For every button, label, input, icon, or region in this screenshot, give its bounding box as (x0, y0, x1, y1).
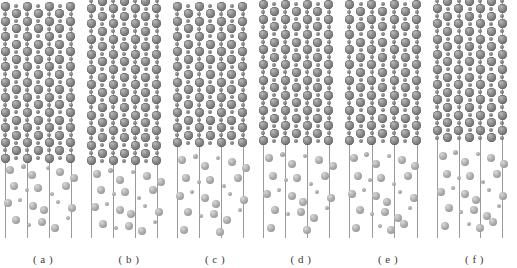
crystal-atom-small (403, 124, 407, 128)
crystal-atom-small (36, 4, 40, 8)
crystal-atom-large (55, 9, 64, 18)
crystal-atom-small (294, 124, 298, 128)
crystal-atom-small (144, 128, 148, 132)
crystal-atom-large (412, 60, 421, 69)
disordered-atom-large (201, 194, 209, 202)
disordered-atom-large (445, 204, 453, 212)
disordered-atom-small (309, 182, 313, 186)
crystal-atom-large (390, 121, 399, 130)
crystal-atom-small (197, 27, 201, 31)
crystal-atom-small (370, 131, 374, 135)
crystal-atom-small (155, 45, 159, 49)
crystal-atom-small (36, 65, 40, 69)
crystal-atom-large (401, 38, 410, 47)
crystal-atom-large (87, 126, 96, 135)
crystal-atom-small (272, 32, 276, 36)
crystal-atom-small (175, 27, 179, 31)
crystal-atom-large (217, 123, 226, 132)
crystal-atom-small (230, 4, 234, 8)
crystal-atom-small (272, 63, 276, 67)
crystal-atom-large (195, 123, 204, 132)
crystal-atom-large (55, 146, 64, 155)
crystal-atom-small (3, 118, 7, 122)
crystal-atom-small (500, 60, 504, 64)
crystal-atom-small (89, 136, 93, 140)
crystal-atom-small (478, 0, 482, 3)
panel-e: ( e ) (344, 0, 432, 268)
crystal-atom-small (272, 2, 276, 6)
disordered-atom-large (461, 190, 469, 198)
crystal-atom-small (208, 95, 212, 99)
crystal-atom-small (415, 86, 419, 90)
crystal-atom-small (3, 57, 7, 61)
crystal-atom-large (131, 141, 140, 150)
crystal-atom-large (87, 65, 96, 74)
crystal-atom-large (98, 118, 107, 127)
disordered-atom-large (34, 184, 42, 192)
crystal-atom-small (435, 60, 439, 64)
crystal-atom-large (259, 136, 268, 145)
crystal-atom-small (230, 50, 234, 54)
crystal-atom-small (327, 40, 331, 44)
crystal-atom-small (294, 48, 298, 52)
crystal-atom-large (141, 12, 150, 21)
crystal-atom-small (347, 40, 351, 44)
crystal-atom-large (324, 15, 333, 24)
crystal-atom-large (184, 24, 193, 33)
crystal-atom-small (327, 86, 331, 90)
crystal-atom-large (498, 65, 507, 74)
crystal-atom-small (58, 110, 62, 114)
crystal-atom-small (500, 121, 504, 125)
disordered-atom-large (263, 190, 271, 198)
crystal-atom-small (294, 17, 298, 21)
crystal-atom-large (454, 80, 463, 89)
crystal-atom-large (109, 80, 118, 89)
crystal-atom-large (303, 91, 312, 100)
crystal-atom-large (238, 123, 247, 132)
crystal-atom-large (443, 88, 452, 97)
crystal-atom-large (465, 42, 474, 51)
disordered-atom-large (184, 208, 192, 216)
crystal-atom-large (270, 22, 279, 31)
disordered-atom-small (364, 152, 369, 157)
disordered-atom-large (372, 160, 380, 168)
crystal-atom-large (66, 2, 75, 11)
crystal-atom-small (403, 93, 407, 97)
disordered-atom-large (157, 178, 165, 186)
disordered-atom-large (476, 224, 484, 232)
crystal-atom-small (133, 60, 137, 64)
crystal-atom-small (230, 19, 234, 23)
crystal-atom-large (195, 93, 204, 102)
disordered-atom-small (190, 190, 194, 194)
crystal-atom-small (3, 12, 7, 16)
crystal-atom-small (69, 118, 73, 122)
crystal-atom-small (208, 141, 212, 145)
crystal-atom-large (1, 17, 10, 26)
crystal-atom-large (281, 15, 290, 24)
crystal-atom-small (58, 4, 62, 8)
crystal-atom-large (131, 65, 140, 74)
panel-caption-f: ( f ) (432, 253, 517, 265)
disordered-atom-large (350, 154, 358, 162)
crystal-atom-small (415, 116, 419, 120)
crystal-atom-small (435, 0, 439, 3)
crystal-atom-large (454, 95, 463, 104)
disordered-atom-large (216, 228, 224, 236)
crystal-atom-small (25, 72, 29, 76)
crystal-atom-small (283, 10, 287, 14)
crystal-atom-small (359, 124, 363, 128)
crystal-atom-small (294, 63, 298, 67)
crystal-atom-small (478, 75, 482, 79)
crystal-atom-large (313, 98, 322, 107)
crystal-atom-small (241, 42, 245, 46)
disordered-atom-small (487, 188, 491, 192)
crystal-atom-large (206, 70, 215, 79)
crystal-atom-small (122, 128, 126, 132)
crystal-atom-large (313, 7, 322, 16)
crystal-atom-small (47, 57, 51, 61)
crystal-atom-small (47, 133, 51, 137)
crystal-atom-large (173, 62, 182, 71)
crystal-atom-large (23, 62, 32, 71)
crystal-atom-small (457, 90, 461, 94)
crystal-atom-large (303, 45, 312, 54)
